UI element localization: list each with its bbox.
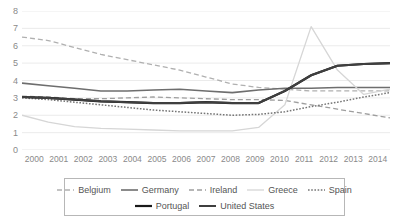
x-axis-tick-label: 2000	[22, 153, 47, 167]
x-axis-tick-label: 2003	[96, 153, 121, 167]
line-chart: 012345678 200020012002200320042005200620…	[0, 0, 406, 222]
legend-item-label: Germany	[142, 185, 179, 195]
legend-line-swatch-icon	[57, 186, 74, 194]
y-axis-tick-label: 5	[0, 59, 18, 68]
legend-item-label: United States	[220, 201, 274, 211]
legend-item-label: Belgium	[78, 185, 111, 195]
y-axis: 012345678	[0, 0, 20, 150]
y-axis-tick-label: 3	[0, 93, 18, 102]
x-axis-tick-label: 2010	[267, 153, 292, 167]
legend-line-swatch-icon	[135, 202, 152, 210]
y-axis-tick-label: 4	[0, 76, 18, 85]
legend-item-germany[interactable]: Germany	[121, 185, 179, 195]
legend-row-secondary: PortugalUnited States	[71, 198, 338, 214]
x-axis-tick-label: 2001	[47, 153, 72, 167]
x-axis-tick-label: 2007	[194, 153, 219, 167]
legend-line-swatch-icon	[247, 186, 264, 194]
plot-svg	[22, 11, 390, 150]
x-axis-tick-label: 2011	[292, 153, 317, 167]
x-axis-tick-label: 2005	[145, 153, 170, 167]
series-line-spain	[22, 93, 390, 116]
x-axis-tick-label: 2013	[341, 153, 366, 167]
chart-legend: BelgiumGermanyIrelandGreeceSpain Portuga…	[64, 178, 345, 216]
legend-item-greece[interactable]: Greece	[247, 185, 298, 195]
legend-row-primary: BelgiumGermanyIrelandGreeceSpain	[71, 182, 338, 198]
legend-item-united-states[interactable]: United States	[199, 201, 274, 211]
legend-line-swatch-icon	[199, 202, 216, 210]
legend-item-label: Portugal	[156, 201, 190, 211]
legend-line-swatch-icon	[308, 186, 325, 194]
legend-item-portugal[interactable]: Portugal	[135, 201, 190, 211]
y-axis-tick-label: 1	[0, 128, 18, 137]
plot-area	[22, 11, 390, 150]
x-axis-tick-label: 2002	[71, 153, 96, 167]
y-axis-tick-label: 2	[0, 111, 18, 120]
x-axis-tick-label: 2008	[218, 153, 243, 167]
legend-item-label: Ireland	[210, 185, 238, 195]
x-axis-tick-label: 2009	[243, 153, 268, 167]
legend-item-label: Spain	[329, 185, 352, 195]
legend-item-label: Greece	[268, 185, 298, 195]
y-axis-tick-label: 7	[0, 24, 18, 33]
series-line-germany	[22, 83, 390, 93]
x-axis-tick-label: 2004	[120, 153, 145, 167]
legend-item-ireland[interactable]: Ireland	[189, 185, 238, 195]
x-axis-tick-label: 2012	[316, 153, 341, 167]
legend-item-spain[interactable]: Spain	[308, 185, 352, 195]
y-axis-tick-label: 8	[0, 7, 18, 16]
series-line-united-states	[22, 63, 390, 103]
y-axis-tick-label: 6	[0, 41, 18, 50]
x-axis: 2000200120022003200420052006200720082009…	[22, 153, 390, 167]
y-axis-tick-label: 0	[0, 146, 18, 155]
series-line-portugal	[22, 63, 390, 103]
legend-line-swatch-icon	[121, 186, 138, 194]
legend-item-belgium[interactable]: Belgium	[57, 185, 111, 195]
series-line-belgium	[22, 37, 390, 91]
legend-line-swatch-icon	[189, 186, 206, 194]
x-axis-tick-label: 2006	[169, 153, 194, 167]
x-axis-tick-label: 2014	[365, 153, 390, 167]
